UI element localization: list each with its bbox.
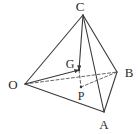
edge-cb [83, 15, 117, 72]
vertex-label-c: C [76, 0, 85, 13]
construction-group [25, 15, 117, 87]
construction-cg [79, 15, 83, 70]
edge-oa [25, 84, 104, 112]
point-marker-p [80, 86, 83, 89]
edge-oc [25, 15, 83, 84]
edge-ab [104, 72, 117, 112]
edge-group-dashed [25, 72, 117, 84]
construction-og [25, 70, 79, 84]
edge-ca [83, 15, 104, 112]
construction-gp [79, 70, 81, 87]
vertex-label-a: A [99, 118, 108, 131]
vertex-label-p: P [78, 90, 85, 102]
vertex-label-o: O [8, 78, 17, 91]
point-marker-g [78, 69, 81, 72]
edge-ob [25, 72, 117, 84]
vertex-label-g: G [66, 58, 75, 70]
geometry-figure: COBAGP [0, 0, 139, 134]
vertex-label-b: B [125, 66, 134, 79]
